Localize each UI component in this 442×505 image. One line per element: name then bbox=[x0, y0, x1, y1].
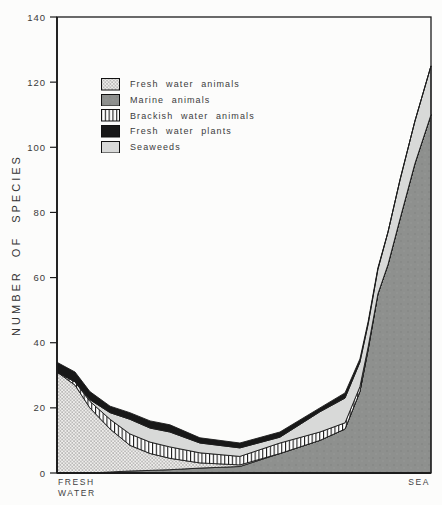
legend-swatch-fresh-water-animals bbox=[101, 78, 120, 91]
legend-label: Fresh water plants bbox=[130, 126, 232, 136]
legend-item: Seaweeds bbox=[101, 141, 255, 154]
y-tick-label: 20 bbox=[16, 402, 46, 413]
x-axis-label-sea: SEA bbox=[400, 477, 430, 488]
chart-legend: Fresh water animals Marine animals Brack… bbox=[101, 78, 255, 156]
legend-label: Seaweeds bbox=[130, 142, 181, 152]
x-axis-label-fresh-water: FRESH WATER bbox=[58, 477, 96, 498]
legend-swatch-marine-animals bbox=[101, 94, 120, 107]
chart-canvas bbox=[0, 0, 442, 505]
y-tick-label: 140 bbox=[16, 12, 46, 23]
legend-swatch-seaweeds bbox=[101, 141, 120, 154]
legend-item: Fresh water animals bbox=[101, 78, 255, 91]
legend-label: Marine animals bbox=[130, 95, 210, 105]
species-salinity-chart: NUMBER OF SPECIES 020406080100120140 FRE… bbox=[0, 0, 442, 505]
legend-item: Fresh water plants bbox=[101, 125, 255, 138]
y-tick-label: 80 bbox=[16, 207, 46, 218]
y-tick-label: 120 bbox=[16, 77, 46, 88]
legend-swatch-fresh-water-plants bbox=[101, 125, 120, 138]
legend-item: Brackish water animals bbox=[101, 109, 255, 122]
legend-label: Fresh water animals bbox=[130, 79, 240, 89]
y-tick-label: 100 bbox=[16, 142, 46, 153]
y-tick-label: 0 bbox=[16, 468, 46, 479]
legend-item: Marine animals bbox=[101, 94, 255, 107]
y-tick-label: 60 bbox=[16, 272, 46, 283]
legend-label: Brackish water animals bbox=[130, 111, 255, 121]
legend-swatch-brackish-water-animals bbox=[101, 109, 120, 122]
y-tick-label: 40 bbox=[16, 337, 46, 348]
y-axis-title: NUMBER OF SPECIES bbox=[10, 154, 22, 336]
